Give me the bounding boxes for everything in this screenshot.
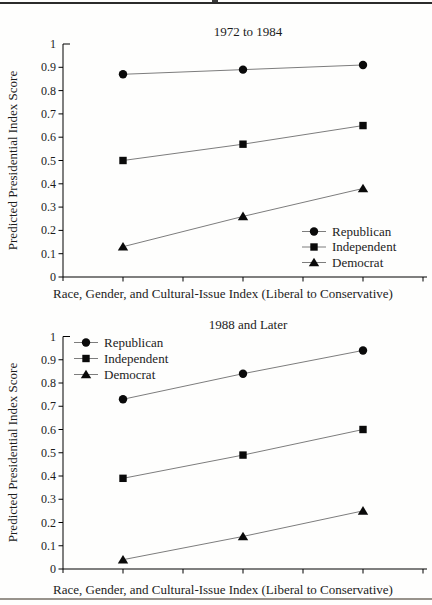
chart1-y-axis-label: Predicted Presidential Index Score — [5, 71, 20, 251]
y-tick-label: 0 — [50, 270, 56, 284]
y-tick-label: 0.6 — [41, 130, 56, 144]
republican-marker-icon — [359, 61, 367, 69]
chart1-legend: RepublicanIndependentDemocrat — [302, 224, 397, 270]
legend-label-republican: Republican — [332, 224, 392, 239]
y-tick-label: 1 — [50, 330, 56, 344]
y-tick-label: 0.1 — [41, 539, 56, 553]
y-tick-label: 0 — [50, 562, 56, 576]
y-tick-label: 1 — [50, 37, 56, 51]
legend-label-independent: Independent — [332, 239, 397, 254]
legend-label-republican: Republican — [104, 335, 164, 350]
y-tick-label: 0.3 — [41, 492, 56, 506]
democrat-marker-icon — [358, 184, 368, 193]
y-tick-label: 0.9 — [41, 60, 56, 74]
democrat-marker-icon — [358, 506, 368, 515]
legend-square-icon — [82, 355, 89, 362]
independent-marker-icon — [119, 475, 126, 482]
y-tick-label: 0.8 — [41, 84, 56, 98]
y-tick-label: 0.8 — [41, 376, 56, 390]
y-tick-label: 0.1 — [41, 247, 56, 261]
legend-square-icon — [310, 243, 317, 250]
chart2-series — [118, 346, 368, 563]
legend-label-independent: Independent — [104, 351, 169, 366]
y-tick-label: 0.7 — [41, 399, 56, 413]
independent-marker-icon — [239, 140, 246, 147]
republican-marker-icon — [359, 346, 367, 354]
y-tick-label: 0.4 — [41, 469, 56, 483]
independent-marker-icon — [359, 122, 366, 129]
y-tick-label: 0.3 — [41, 200, 56, 214]
legend-label-democrat: Democrat — [104, 367, 156, 382]
legend-circle-icon — [310, 227, 318, 235]
chart1-title: 1972 to 1984 — [214, 24, 283, 39]
republican-marker-icon — [119, 395, 127, 403]
chart2-y-axis-label: Predicted Presidential Index Score — [5, 363, 20, 543]
y-tick-label: 0.6 — [41, 423, 56, 437]
republican-marker-icon — [239, 65, 247, 73]
independent-marker-icon — [239, 451, 246, 458]
y-tick-label: 0.2 — [41, 223, 56, 237]
chart2-axes: 00.10.20.30.40.50.60.70.80.91 — [41, 330, 427, 577]
y-tick-label: 0.2 — [41, 516, 56, 530]
chart2-legend: RepublicanIndependentDemocrat — [74, 335, 169, 382]
independent-marker-icon — [119, 157, 126, 164]
chart2-title: 1988 and Later — [209, 317, 288, 332]
bottom-rule — [0, 598, 432, 600]
republican-marker-icon — [119, 70, 127, 78]
y-tick-label: 0.9 — [41, 353, 56, 367]
independent-marker-icon — [359, 426, 366, 433]
republican-marker-icon — [239, 370, 247, 378]
two-panel-line-chart-figure: 1972 to 1984 Predicted Presidential Inde… — [0, 0, 432, 605]
y-tick-label: 0.5 — [41, 446, 56, 460]
y-tick-label: 0.4 — [41, 177, 56, 191]
chart1-x-axis-label: Race, Gender, and Cultural-Issue Index (… — [53, 286, 393, 301]
y-tick-label: 0.7 — [41, 107, 56, 121]
chart2-x-axis-label: Race, Gender, and Cultural-Issue Index (… — [53, 582, 393, 597]
legend-label-democrat: Democrat — [332, 255, 384, 270]
chart1-series — [118, 61, 368, 251]
y-tick-label: 0.5 — [41, 154, 56, 168]
legend-circle-icon — [82, 338, 90, 346]
book-figure-page: 1972 to 1984 Predicted Presidential Inde… — [0, 0, 432, 605]
